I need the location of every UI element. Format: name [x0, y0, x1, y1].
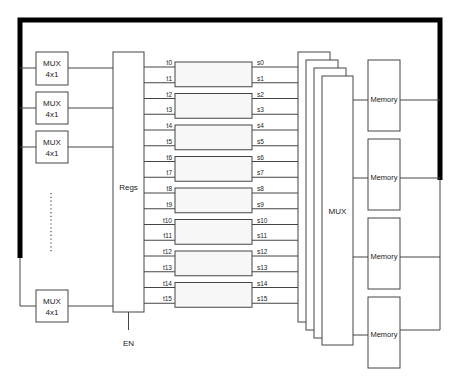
processing-block: [175, 94, 252, 119]
t-label: t4: [167, 122, 173, 129]
s-label: s2: [257, 91, 264, 98]
t-label: t15: [163, 295, 172, 302]
memory-2: Memory: [368, 218, 400, 289]
processing-block: [175, 62, 252, 87]
s-label: s4: [257, 122, 264, 129]
t-label: t6: [167, 154, 173, 161]
t-label: t10: [163, 217, 172, 224]
s-label: s5: [257, 138, 264, 145]
svg-text:4x1: 4x1: [46, 149, 59, 158]
svg-text:Memory: Memory: [370, 252, 397, 261]
s-label: s14: [257, 280, 268, 287]
t-label: t14: [163, 280, 172, 287]
mux-to-memory-wires: [353, 100, 368, 335]
t-label: t9: [167, 201, 173, 208]
t-label: t2: [167, 91, 173, 98]
memory-1: Memory: [368, 139, 400, 210]
t-labels: t0t1t2t3t4t5t6t7t8t9t10t11t12t13t14t15: [163, 59, 172, 302]
t-label: t7: [167, 169, 173, 176]
svg-text:MUX: MUX: [43, 99, 61, 108]
s-label: s9: [257, 201, 264, 208]
s-label: s12: [257, 248, 268, 255]
svg-text:Regs: Regs: [119, 183, 138, 192]
t-label: t1: [167, 75, 173, 82]
memory-0: Memory: [368, 60, 400, 131]
svg-text:Memory: Memory: [370, 330, 397, 339]
s-label: s15: [257, 295, 268, 302]
processing-block: [175, 188, 252, 213]
s-label: s0: [257, 59, 264, 66]
enable-label: EN: [123, 339, 134, 348]
input-mux-2: MUX 4x1: [36, 131, 68, 163]
output-mux-stack: MUX: [298, 52, 353, 345]
s-label: s6: [257, 154, 264, 161]
mux-to-regs-wires: [68, 68, 113, 306]
s-label: s13: [257, 264, 268, 271]
memory-to-bus-wires: [400, 100, 440, 330]
s-label: s8: [257, 185, 264, 192]
svg-text:4x1: 4x1: [46, 70, 59, 79]
t-label: t8: [167, 185, 173, 192]
s-label: s10: [257, 217, 268, 224]
processing-block: [175, 157, 252, 182]
processing-block: [175, 283, 252, 308]
registers-block: Regs EN: [113, 52, 144, 348]
s-label: s7: [257, 169, 264, 176]
svg-text:Memory: Memory: [370, 173, 397, 182]
svg-text:MUX: MUX: [43, 138, 61, 147]
s-label: s11: [257, 232, 267, 239]
input-mux-n: MUX 4x1: [36, 290, 68, 322]
processing-block: [175, 251, 252, 276]
memory-3: Memory: [368, 297, 400, 368]
t-label: t5: [167, 138, 173, 145]
svg-text:MUX: MUX: [43, 297, 61, 306]
processing-block: [175, 220, 252, 245]
svg-text:MUX: MUX: [43, 59, 61, 68]
s-label: s3: [257, 106, 264, 113]
svg-text:4x1: 4x1: [46, 308, 59, 317]
diagram-canvas: MUX 4x1 MUX 4x1 MUX 4x1 MUX 4x1 Regs EN …: [0, 0, 452, 385]
t-label: t13: [163, 264, 172, 271]
input-mux-1: MUX 4x1: [36, 92, 68, 124]
t-label: t11: [163, 232, 172, 239]
svg-text:4x1: 4x1: [46, 110, 59, 119]
s-label: s1: [257, 75, 264, 82]
t-label: t0: [167, 59, 173, 66]
input-mux-0: MUX 4x1: [36, 52, 68, 85]
processing-blocks: [175, 62, 252, 307]
t-label: t3: [167, 106, 173, 113]
processing-block: [175, 125, 252, 150]
t-label: t12: [163, 248, 172, 255]
output-mux-label: MUX: [329, 207, 347, 216]
svg-text:Memory: Memory: [370, 95, 397, 104]
s-labels: s0s1s2s3s4s5s6s7s8s9s10s11s12s13s14s15: [257, 59, 268, 302]
